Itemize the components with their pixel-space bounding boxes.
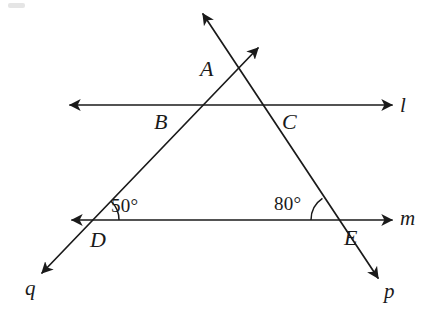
angle-value-D: 50° <box>111 196 139 215</box>
point-label-D: D <box>90 229 106 251</box>
point-label-B: B <box>154 111 167 133</box>
line-label-m: m <box>400 208 415 229</box>
point-label-C: C <box>282 111 297 133</box>
geometry-diagram: lmqpABCDE50°80° <box>0 0 428 320</box>
angle-value-E: 80° <box>274 194 302 213</box>
arc-angle-at-E <box>311 198 322 220</box>
line-q <box>42 48 258 273</box>
point-label-E: E <box>344 227 357 249</box>
line-label-p: p <box>384 281 395 302</box>
point-label-A: A <box>200 58 213 80</box>
line-label-q: q <box>25 278 36 299</box>
geometry-canvas <box>0 0 428 320</box>
line-label-l: l <box>400 95 406 116</box>
